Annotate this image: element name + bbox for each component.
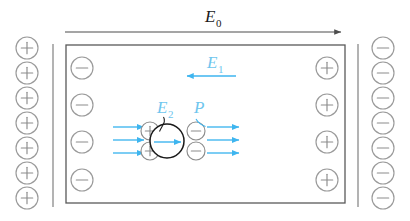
dielectric-slab-boundary [66, 45, 345, 203]
field-label-e0: E0 [204, 7, 222, 29]
field-label-e2-subscript: 2 [168, 108, 174, 120]
field-label-p-base: P [193, 98, 204, 117]
bound-positive-surface-charge [316, 94, 338, 116]
field-label-p: P [193, 98, 204, 117]
positive-capacitor-plate [16, 187, 38, 209]
negative-capacitor-plate [372, 87, 394, 109]
positive-capacitor-plate [16, 37, 38, 59]
negative-capacitor-plate [372, 112, 394, 134]
negative-capacitor-plate [372, 187, 394, 209]
field-label-e2: E2 [156, 98, 173, 120]
diagram-canvas: E0E1E2P [0, 0, 410, 221]
physics-diagram-figure: E0E1E2P [0, 0, 410, 221]
bound-negative-surface-charge [71, 131, 93, 153]
bound-positive-surface-charge [316, 131, 338, 153]
polarized-dielectric-sphere [150, 124, 184, 158]
incoming-polarization-arrows [113, 127, 144, 153]
positive-capacitor-plate [16, 87, 38, 109]
negative-capacitor-plate [372, 37, 394, 59]
right-plate-charge-column [372, 37, 394, 209]
bound-positive-surface-charge-column [316, 57, 338, 191]
sphere-negative-charge-column [187, 122, 205, 160]
bound-negative-surface-charge [71, 169, 93, 191]
field-label-e1-subscript: 1 [218, 63, 224, 75]
field-label-e1-base: E [206, 53, 218, 72]
negative-capacitor-plate [372, 137, 394, 159]
positive-capacitor-plate [16, 162, 38, 184]
negative-capacitor-plate [372, 62, 394, 84]
bound-positive-surface-charge [316, 169, 338, 191]
field-label-e2-base: E [156, 98, 168, 117]
field-labels-group: E0E1E2P [156, 7, 223, 120]
field-label-e0-subscript: 0 [216, 17, 222, 29]
field-label-e1: E1 [206, 53, 223, 75]
negative-capacitor-plate [358, 37, 394, 209]
positive-capacitor-plate [16, 37, 53, 209]
left-plate-charge-column [16, 37, 38, 209]
bound-positive-surface-charge [316, 57, 338, 79]
field-label-e0-base: E [204, 7, 216, 26]
positive-capacitor-plate [16, 62, 38, 84]
bound-negative-surface-charge [71, 57, 93, 79]
sphere-negative-charge [187, 142, 205, 160]
outgoing-polarization-arrows [207, 127, 239, 153]
bound-negative-surface-charge [71, 94, 93, 116]
negative-capacitor-plate [372, 162, 394, 184]
bound-negative-surface-charge-column [71, 57, 93, 191]
positive-capacitor-plate [16, 137, 38, 159]
positive-capacitor-plate [16, 112, 38, 134]
